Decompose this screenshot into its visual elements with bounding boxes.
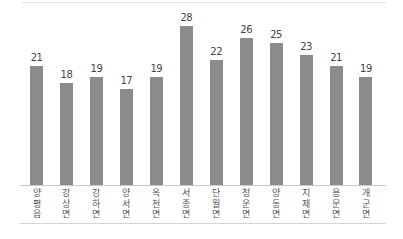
category-label: 개군면 [359,188,373,220]
bar [240,38,253,185]
bar-value-label: 23 [291,41,321,52]
bar [180,26,193,185]
x-axis-baseline [20,185,386,186]
bar-value-label: 28 [171,12,201,23]
bar-chart: 21양평읍18강상면19강하면17양서면19옥천면28서종면22단월면26청운면… [0,0,403,239]
category-label: 양평읍 [30,188,44,220]
bar [359,77,372,185]
category-label: 옥천면 [149,188,163,220]
bar-value-label: 21 [321,52,351,63]
category-label: 서종면 [179,188,193,220]
bar-value-label: 25 [261,29,291,40]
bar-value-label: 19 [351,63,381,74]
bar [330,66,343,185]
category-label: 용문면 [329,188,343,220]
category-label: 양동면 [269,188,283,220]
bar-value-label: 21 [22,52,52,63]
bar-value-label: 26 [231,24,261,35]
bar-value-label: 19 [81,63,111,74]
bar [120,89,133,185]
bar-value-label: 17 [111,75,141,86]
category-label: 강상면 [59,188,73,220]
bar [210,60,223,185]
bar [300,55,313,185]
category-label: 양서면 [119,188,133,220]
bar [150,77,163,185]
category-label: 청운면 [239,188,253,220]
bar-value-label: 19 [141,63,171,74]
bar [30,66,43,185]
bar-value-label: 22 [201,46,231,57]
bar-value-label: 18 [51,69,81,80]
bar [270,43,283,185]
category-label: 단월면 [209,188,223,220]
bottom-rule [20,223,386,224]
bar [60,83,73,185]
category-label: 지제면 [299,188,313,220]
bar [90,77,103,185]
category-label: 강하면 [89,188,103,220]
